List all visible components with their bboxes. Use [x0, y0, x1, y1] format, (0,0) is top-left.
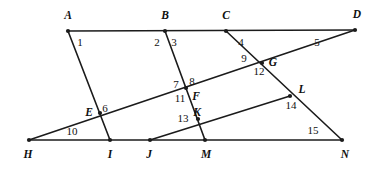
vertex-dot-k: [196, 117, 200, 121]
vertex-dot-i: [108, 138, 112, 142]
vertex-dot-h: [27, 138, 31, 142]
segment-transversal-H-D: [29, 30, 355, 140]
vertex-dot-d: [353, 28, 357, 32]
segment-transversal-B-M: [165, 31, 205, 140]
vertex-dot-n: [340, 138, 344, 142]
vertex-dot-f: [184, 86, 188, 90]
vertex-dot-g: [260, 61, 264, 65]
segment-transversal-C-N: [226, 31, 342, 140]
vertex-dot-b: [163, 29, 167, 33]
vertex-dot-c: [224, 29, 228, 33]
figure-canvas: [0, 0, 379, 169]
vertex-dot-l: [288, 94, 292, 98]
geometry-figure: ABCDEFGHIJKLMN123456789101112131415: [0, 0, 379, 169]
vertex-dot-a: [66, 29, 70, 33]
segment-top-edge: [68, 30, 355, 31]
segment-transversal-J-L: [150, 96, 290, 140]
vertex-dot-j: [148, 138, 152, 142]
segments-group: [29, 30, 355, 140]
vertex-dot-e: [98, 111, 102, 115]
vertex-dot-m: [203, 138, 207, 142]
segment-transversal-A-I: [68, 31, 110, 140]
